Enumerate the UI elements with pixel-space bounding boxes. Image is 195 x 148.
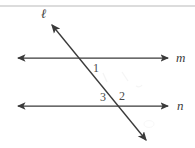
label-line-n: n — [177, 99, 184, 112]
label-transversal-l: ℓ — [41, 7, 46, 20]
geometry-figure: ℓ m n 1 3 2 — [0, 0, 195, 148]
label-angle-2: 2 — [119, 90, 125, 102]
label-line-m: m — [176, 51, 185, 64]
label-angle-3: 3 — [100, 91, 106, 103]
label-angle-1: 1 — [93, 62, 99, 74]
transversal-line-l — [52, 25, 146, 140]
